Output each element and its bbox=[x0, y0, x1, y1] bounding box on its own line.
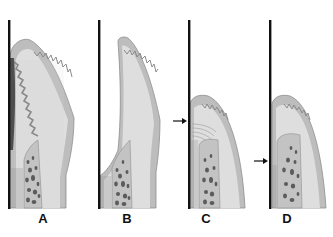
pdl-fibers bbox=[191, 140, 198, 208]
panel-d bbox=[254, 20, 326, 209]
periodontal-diagram bbox=[0, 0, 333, 237]
tooth-surface-line bbox=[8, 20, 10, 209]
tooth-surface-line bbox=[188, 20, 190, 209]
panel-label-d: D bbox=[277, 211, 297, 226]
tooth-surface-line bbox=[269, 20, 271, 209]
alveolar-bone bbox=[277, 134, 302, 208]
panel-b bbox=[98, 20, 160, 209]
arrow-c-icon bbox=[173, 118, 187, 124]
panel-label-a: A bbox=[33, 211, 53, 226]
pdl-fibers bbox=[11, 168, 23, 208]
panel-c bbox=[173, 20, 245, 209]
pdl-fibers bbox=[100, 176, 111, 208]
panel-label-b: B bbox=[117, 211, 137, 226]
alveolar-bone bbox=[199, 139, 220, 208]
pdl-fibers bbox=[272, 165, 277, 208]
tooth-surface-line bbox=[98, 20, 100, 209]
panel-a bbox=[8, 20, 74, 209]
panel-label-c: C bbox=[196, 211, 216, 226]
arrow-d-icon bbox=[254, 158, 268, 164]
